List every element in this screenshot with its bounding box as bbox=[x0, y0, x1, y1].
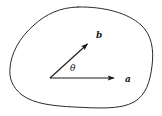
vector-angle-diagram: b a θ bbox=[0, 0, 162, 116]
vector-b-line bbox=[50, 44, 88, 78]
angle-theta-label: θ bbox=[70, 63, 76, 73]
vector-b-label: b bbox=[96, 30, 102, 40]
diagram-canvas: b a θ bbox=[0, 0, 162, 116]
closed-curve-region bbox=[10, 7, 153, 108]
vector-a-label: a bbox=[125, 74, 131, 84]
